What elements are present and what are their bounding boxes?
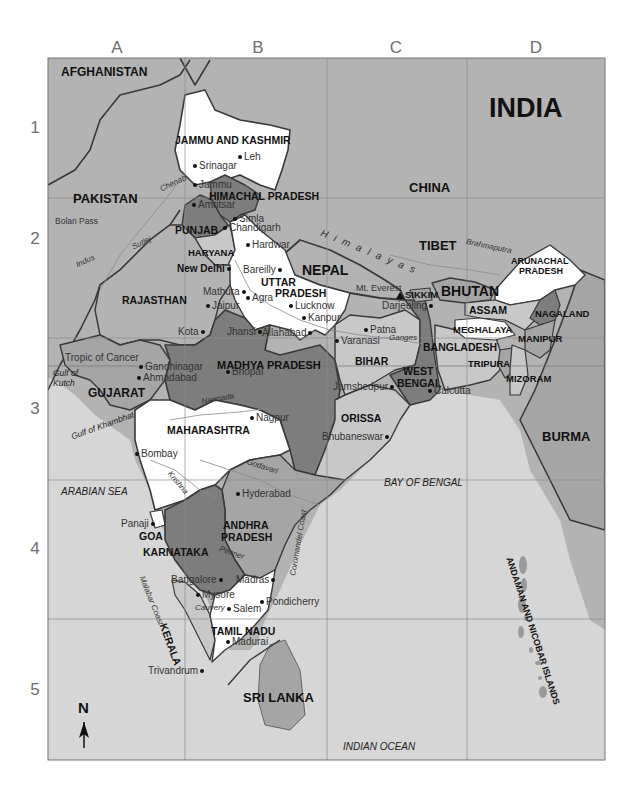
city-jamshedpur: Jamshedpur xyxy=(333,382,396,392)
city-allahabad: Allahabad xyxy=(262,328,314,338)
map-title: INDIA xyxy=(489,95,563,122)
city-pondicherry: Pondicherry xyxy=(258,597,319,607)
city-panaji: Panaji xyxy=(121,519,157,529)
city-darjeeling: Darjeeling xyxy=(382,301,435,311)
label-jammu-kashmir: JAMMU AND KASHMIR xyxy=(175,135,291,146)
label-china: CHINA xyxy=(409,181,450,194)
label-punjab: PUNJAB xyxy=(175,225,218,236)
label-bolan-pass: Bolan Pass xyxy=(55,217,98,226)
label-sikkim: SIKKIM xyxy=(405,290,438,300)
label-river-ganges: Ganges xyxy=(389,334,417,342)
city-trivandrum: Trivandrum xyxy=(148,666,206,676)
city-mathura: Mathura xyxy=(203,287,248,297)
label-nepal: NEPAL xyxy=(302,263,348,277)
city-kanpur: Kanpur xyxy=(300,313,340,323)
label-bangladesh: BANGLADESH xyxy=(423,342,497,353)
label-goa: GOA xyxy=(139,531,163,542)
label-mizoram: MIZORAM xyxy=(506,374,551,384)
label-andhra-1: ANDHRA xyxy=(223,520,269,531)
city-salem: Salem xyxy=(225,604,261,614)
city-madras: Madras xyxy=(236,575,277,585)
city-bangalore: Bangalore xyxy=(171,575,225,585)
label-tropic-of-cancer: Tropic of Cancer xyxy=(65,353,139,363)
city-kota: Kota xyxy=(178,327,207,337)
city-bhopal: Bhopal xyxy=(224,367,263,377)
label-bihar: BIHAR xyxy=(355,356,388,367)
label-sri-lanka: SRI LANKA xyxy=(243,691,314,704)
label-meghalaya: MEGHALAYA xyxy=(453,325,512,335)
city-hyderabad: Hyderabad xyxy=(234,489,291,499)
label-tamil-nadu: TAMIL NADU xyxy=(211,626,275,637)
city-varanasi: Varanasi xyxy=(333,336,380,346)
city-bhubaneswar: Bhubaneswar xyxy=(322,432,391,442)
city-agra: Agra xyxy=(244,293,273,303)
label-tripura: TRIPURA xyxy=(468,359,510,369)
city-lucknow: Lucknow xyxy=(287,301,334,311)
label-karnataka: KARNATAKA xyxy=(143,547,209,558)
label-gulf-of-kutch-2: Kutch xyxy=(53,379,75,388)
city-ahmadabad: Ahmadabad xyxy=(135,373,197,383)
label-bay-of-bengal: BAY OF BENGAL xyxy=(384,478,463,488)
label-burma: BURMA xyxy=(542,430,590,443)
city-calcutta: Calcutta xyxy=(426,386,471,396)
city-bareilly: Bareilly xyxy=(243,265,284,275)
label-river-cauvery: Cauvery xyxy=(195,604,225,612)
city-jaipur: Jaipur xyxy=(204,301,239,311)
city-amritsar: Amritsar xyxy=(190,200,235,210)
city-jhansi: Jhansi xyxy=(227,327,264,337)
city-bombay: Bombay xyxy=(133,449,178,459)
label-rajasthan: RAJASTHAN xyxy=(122,295,187,306)
label-arabian-sea: ARABIAN SEA xyxy=(61,487,128,497)
label-nagaland: NAGALAND xyxy=(535,309,589,319)
label-west-bengal-1: WEST xyxy=(403,366,433,377)
compass-label: N xyxy=(78,700,89,715)
label-manipur: MANIPUR xyxy=(518,334,562,344)
label-arunachal-1: ARUNACHAL xyxy=(511,257,569,266)
label-maharashtra: MAHARASHTRA xyxy=(167,425,250,436)
label-orissa: ORISSA xyxy=(341,413,381,424)
label-indian-ocean: INDIAN OCEAN xyxy=(343,742,415,752)
city-new-delhi: New Delhi xyxy=(177,264,233,274)
city-nagpur: Nagpur xyxy=(248,413,289,423)
label-uttar-pradesh-1: UTTAR xyxy=(261,277,296,288)
label-arunachal-2: PRADESH xyxy=(519,267,563,276)
label-tibet: TIBET xyxy=(419,239,457,252)
label-haryana: HARYANA xyxy=(188,248,234,258)
city-chandigarh: Chandigarh xyxy=(221,223,281,233)
label-gulf-of-kutch-1: Gulf of xyxy=(53,369,78,378)
label-afghanistan: AFGHANISTAN xyxy=(61,66,147,78)
city-gandhinagar: Gandhinagar xyxy=(137,362,203,372)
label-assam: ASSAM xyxy=(469,305,507,316)
label-bhutan: BHUTAN xyxy=(441,284,499,298)
label-mt-everest: Mt. Everest xyxy=(356,284,402,293)
city-jammu: Jammu xyxy=(191,180,232,190)
city-hardwar: Hardwar xyxy=(244,240,290,250)
city-mysore: Mysore xyxy=(194,590,235,600)
city-srinagar: Srinagar xyxy=(191,161,237,171)
label-uttar-pradesh-2: PRADESH xyxy=(275,288,326,299)
city-leh: Leh xyxy=(236,152,261,162)
city-madurai: Madurai xyxy=(224,637,268,647)
label-gujarat: GUJARAT xyxy=(88,387,145,399)
label-andhra-2: PRADESH xyxy=(221,532,272,543)
label-pakistan: PAKISTAN xyxy=(73,192,138,205)
